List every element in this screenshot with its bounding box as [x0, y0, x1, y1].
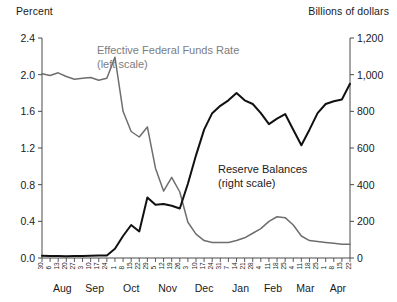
right-axis-tick-3: 600 [357, 142, 375, 154]
x-axis-day-label: 8 [330, 266, 337, 270]
x-axis-day-label: 3 [184, 266, 191, 270]
x-axis-day-label: 21 [241, 262, 248, 269]
x-axis-day-label: 4 [257, 266, 264, 270]
x-axis-day-label: 3 [79, 266, 86, 270]
x-axis-day-label: 15 [127, 262, 134, 269]
legend-reserve-balances: Reserve Balances (right scale) [218, 163, 307, 191]
x-axis-day-label: 18 [305, 262, 312, 269]
x-axis-day-label: 25 [314, 262, 321, 269]
x-axis-month-label-apr: Apr [330, 282, 346, 294]
x-axis-day-label: 22 [346, 262, 353, 269]
x-axis-day-label: 7 [224, 266, 231, 270]
legend-ffr-name: Effective Federal Funds Rate [97, 44, 239, 58]
x-axis-day-label: 1 [111, 266, 118, 270]
x-axis-month-label-jan: Jan [232, 282, 249, 294]
x-axis-day-label: 18 [273, 262, 280, 269]
x-axis-day-label: 25 [281, 262, 288, 269]
x-axis-day-label: 20 [62, 262, 69, 269]
x-axis-day-label: 29 [143, 262, 150, 269]
x-axis-month-label-nov: Nov [158, 282, 177, 294]
x-axis-day-label: 15 [338, 262, 345, 269]
x-axis-day-label: 6 [46, 266, 53, 270]
right-axis-title: Billions of dollars [308, 5, 389, 17]
x-axis-day-label: 14 [233, 262, 240, 269]
right-axis-tick-6: 1,200 [357, 32, 383, 44]
left-axis-tick-1: 0.4 [20, 215, 35, 227]
right-axis-tick-5: 1,000 [357, 69, 383, 81]
legend-reserves-name: Reserve Balances [218, 163, 307, 177]
x-axis-month-label-oct: Oct [123, 282, 139, 294]
x-axis-day-label: 27 [70, 262, 77, 269]
series-line-federal-funds-rate [42, 57, 350, 244]
x-axis-month-label-aug: Aug [53, 282, 72, 294]
chart-container: Percent Billions of dollars Effective Fe… [0, 0, 397, 302]
x-axis-day-label: 5 [151, 266, 158, 270]
x-axis-day-label: 31 [216, 262, 223, 269]
x-axis-day-label: 11 [297, 263, 304, 270]
right-axis-tick-2: 400 [357, 179, 375, 191]
x-axis-day-label: 19 [168, 262, 175, 269]
x-axis-day-label: 1 [322, 266, 329, 270]
x-axis-month-label-dec: Dec [195, 282, 214, 294]
x-axis-month-label-feb: Feb [264, 282, 282, 294]
right-axis-tick-4: 800 [357, 105, 375, 117]
x-axis-month-label-mar: Mar [296, 282, 314, 294]
x-axis-day-label: 12 [160, 262, 167, 269]
left-axis-tick-6: 2.4 [20, 32, 35, 44]
x-axis-day-label: 24 [103, 262, 110, 269]
legend-reserves-scale: (right scale) [218, 177, 307, 191]
x-axis-month-label-sep: Sep [85, 282, 104, 294]
x-axis-day-label: 30 [38, 262, 45, 269]
x-axis-day-label: 24 [208, 262, 215, 269]
x-axis-day-label: 4 [289, 266, 296, 270]
x-axis-day-label: 8 [119, 266, 126, 270]
left-axis-tick-3: 1.2 [20, 142, 35, 154]
left-axis-tick-2: 0.8 [20, 179, 35, 191]
right-axis-tick-0: 0 [357, 252, 363, 264]
x-axis-day-label: 28 [249, 262, 256, 269]
x-axis-day-label: 10 [87, 262, 94, 269]
x-axis-day-label: 10 [192, 262, 199, 269]
left-axis-tick-5: 2.0 [20, 69, 35, 81]
x-axis-day-label: 13 [54, 262, 61, 269]
x-axis-day-label: 22 [135, 262, 142, 269]
x-axis-day-label: 11 [265, 263, 272, 270]
left-axis-tick-4: 1.6 [20, 105, 35, 117]
right-axis-tick-1: 200 [357, 215, 375, 227]
legend-federal-funds-rate: Effective Federal Funds Rate (left scale… [97, 44, 239, 72]
x-axis-day-label: 17 [95, 262, 102, 269]
x-axis-day-label: 26 [176, 262, 183, 269]
left-axis-tick-0: 0.0 [20, 252, 35, 264]
left-axis-title: Percent [16, 5, 53, 17]
x-axis-day-label: 17 [200, 262, 207, 269]
legend-ffr-scale: (left scale) [97, 58, 239, 72]
